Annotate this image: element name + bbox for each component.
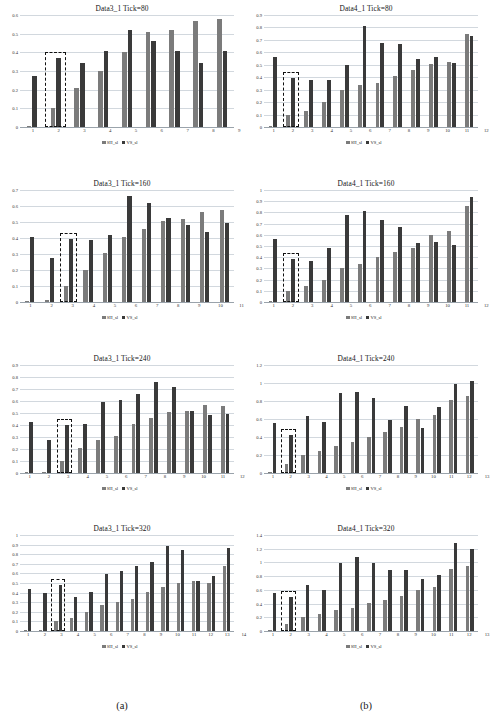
bar-SH_sl xyxy=(358,264,362,302)
x-tick-label: 4 xyxy=(322,303,341,308)
bar-VS_sl xyxy=(175,51,180,127)
y-axis-labels: 00.20.40.60.811.2 xyxy=(248,365,263,473)
bar-group xyxy=(346,365,362,473)
bar-VS_sl xyxy=(50,258,54,302)
y-axis-labels: 00.10.20.30.40.50.60.7 xyxy=(4,190,19,302)
y-tick-label: 0 xyxy=(260,471,262,476)
bar-series-area xyxy=(20,535,234,631)
bar-VS_sl xyxy=(147,203,151,302)
bar-VS_sl xyxy=(28,589,31,631)
chart-panel: Data3_1 Tick=8000.10.20.30.40.50.6123456… xyxy=(0,0,244,175)
y-tick-label: 0.8 xyxy=(12,375,18,380)
bar-VS_sl xyxy=(74,597,77,631)
bar-SH_sl xyxy=(400,596,404,631)
x-axis-labels: 123456789101112 xyxy=(20,474,252,479)
bar-VS_sl xyxy=(434,57,438,127)
bar-VS_sl xyxy=(32,76,37,127)
y-tick-label: 0.7 xyxy=(12,188,18,193)
bar-SH_sl xyxy=(220,210,224,302)
y-tick-label: 0.1 xyxy=(12,619,18,624)
bar-VS_sl xyxy=(119,400,123,473)
bar-group xyxy=(163,365,181,473)
y-tick-label: 0.2 xyxy=(256,453,262,458)
bar-group xyxy=(280,365,296,473)
chart-title: Data4_1 Tick=320 xyxy=(244,520,488,533)
x-tick-label: 8 xyxy=(389,632,407,637)
x-tick-label: 9 xyxy=(407,474,425,479)
x-tick-label: 8 xyxy=(200,128,226,133)
bar-group xyxy=(215,190,234,302)
x-tick-label: 8 xyxy=(136,632,153,637)
chart-legend: SH_slVS_sl xyxy=(4,140,236,145)
chart-panel: Data4_1 Tick=8000.10.20.30.40.50.60.70.8… xyxy=(244,0,488,175)
y-tick-label: 0.6 xyxy=(256,587,262,592)
bar-VS_sl xyxy=(398,227,402,302)
bar-SH_sl xyxy=(132,424,136,473)
bar-SH_sl xyxy=(411,248,415,302)
bar-VS_sl xyxy=(421,579,425,631)
legend-swatch-icon xyxy=(122,645,125,648)
y-axis-labels: 00.10.20.30.40.50.6 xyxy=(4,15,19,127)
bar-SH_sl xyxy=(376,83,380,127)
y-tick-label: 0.5 xyxy=(256,62,262,67)
bar-group xyxy=(264,535,280,631)
bar-group xyxy=(445,365,461,473)
bar-VS_sl xyxy=(43,593,46,631)
x-axis-labels: 12345678910111213 xyxy=(264,474,494,479)
bar-SH_sl xyxy=(351,442,355,473)
bar-SH_sl xyxy=(54,621,57,631)
x-tick-label: 6 xyxy=(117,474,136,479)
legend-swatch-icon xyxy=(102,645,105,648)
bar-group xyxy=(186,15,210,127)
bar-SH_sl xyxy=(411,70,415,127)
figure-captions: (a) (b) xyxy=(0,689,488,715)
bar-SH_sl xyxy=(449,569,453,631)
x-tick-label: 8 xyxy=(399,128,418,133)
x-tick-label: 1 xyxy=(264,303,283,308)
bar-group xyxy=(429,535,445,631)
bar-group xyxy=(142,535,157,631)
chart-panel: Data3_1 Tick=24000.10.20.30.40.50.60.70.… xyxy=(0,350,244,520)
bar-SH_sl xyxy=(223,566,226,631)
bar-SH_sl xyxy=(42,472,46,473)
x-tick-label: 7 xyxy=(119,632,136,637)
y-tick-label: 1.2 xyxy=(256,546,262,551)
y-tick-label: 0.2 xyxy=(12,268,18,273)
y-tick-label: 1 xyxy=(260,560,262,565)
bar-VS_sl xyxy=(172,387,176,473)
bar-group xyxy=(176,190,195,302)
legend-label: VS_sl xyxy=(126,486,137,491)
x-tick-label: 1 xyxy=(20,303,41,308)
bar-group xyxy=(20,365,38,473)
bar-group xyxy=(73,365,91,473)
bar-VS_sl xyxy=(65,425,69,473)
x-axis-labels: 1234567891011 xyxy=(20,303,252,308)
legend-label: SH_sl xyxy=(351,140,362,145)
y-tick-label: 0.8 xyxy=(256,210,262,215)
x-tick-label: 3 xyxy=(300,474,318,479)
x-tick-label: 4 xyxy=(318,474,336,479)
bar-series-area xyxy=(20,190,234,302)
bar-SH_sl xyxy=(39,630,42,631)
bar-group xyxy=(330,365,346,473)
y-tick-label: 0.8 xyxy=(256,399,262,404)
bar-SH_sl xyxy=(100,605,103,631)
x-tick-label: 2 xyxy=(41,303,62,308)
bar-group xyxy=(264,190,282,302)
x-tick-label: 4 xyxy=(78,474,97,479)
x-tick-label: 3 xyxy=(303,303,322,308)
chart-title: Data3_1 Tick=160 xyxy=(0,175,244,188)
bar-group xyxy=(91,365,109,473)
bar-group xyxy=(297,365,313,473)
x-tick-label: 11 xyxy=(457,303,476,308)
bar-VS_sl xyxy=(227,548,230,631)
bar-SH_sl xyxy=(25,472,29,473)
x-tick-label: 2 xyxy=(283,303,302,308)
x-tick-label: 1 xyxy=(264,128,283,133)
bar-VS_sl xyxy=(273,423,277,473)
bar-SH_sl xyxy=(351,608,355,631)
bar-SH_sl xyxy=(122,237,126,302)
x-tick-label: 6 xyxy=(103,632,120,637)
bar-group xyxy=(407,15,425,127)
legend-swatch-icon xyxy=(346,487,349,490)
